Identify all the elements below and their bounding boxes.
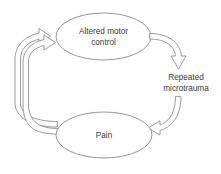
node-altered-motor-control [56,13,151,60]
connector-altered-motor-to-microtrauma [150,34,186,70]
connector-pain-to-altered-motor-inner [23,35,57,134]
node-altered-motor-control-label-line1: Altered motor [79,27,128,36]
cycle-diagram: Altered motor control Repeated microtrau… [0,0,221,174]
connector-microtrauma-to-pain [148,97,181,135]
node-altered-motor-control-label-line2: control [91,38,116,47]
node-pain-label: Pain [96,131,113,140]
edge-label-repeated-microtrauma-line2: microtrauma [163,84,209,93]
diagram-canvas: Altered motor control Repeated microtrau… [0,0,221,174]
edge-label-repeated-microtrauma-line1: Repeated [168,73,204,82]
